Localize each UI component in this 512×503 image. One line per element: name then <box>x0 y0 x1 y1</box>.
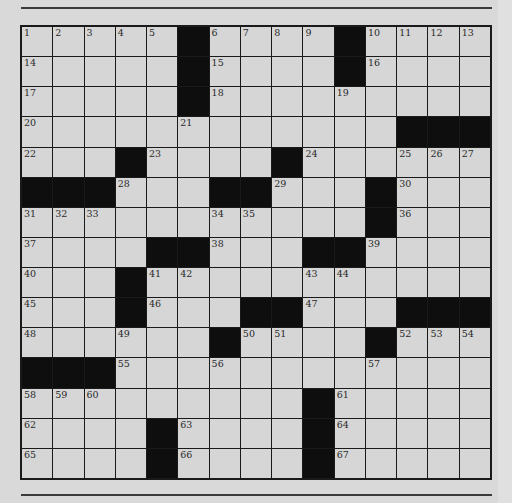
grid-cell[interactable] <box>147 57 177 86</box>
grid-cell[interactable] <box>428 358 458 387</box>
grid-cell[interactable] <box>303 87 333 116</box>
grid-cell[interactable]: 25 <box>397 148 427 177</box>
grid-cell[interactable]: 31 <box>22 208 52 237</box>
grid-cell[interactable] <box>272 268 302 297</box>
grid-cell[interactable] <box>178 389 208 418</box>
grid-cell[interactable]: 55 <box>116 358 146 387</box>
grid-cell[interactable]: 67 <box>335 449 365 478</box>
grid-cell[interactable]: 5 <box>147 27 177 56</box>
grid-cell[interactable] <box>335 148 365 177</box>
grid-cell[interactable] <box>460 208 490 237</box>
grid-cell[interactable]: 47 <box>303 298 333 327</box>
grid-cell[interactable] <box>460 87 490 116</box>
grid-cell[interactable] <box>85 419 115 448</box>
grid-cell[interactable] <box>241 268 271 297</box>
grid-cell[interactable] <box>85 449 115 478</box>
grid-cell[interactable] <box>147 117 177 146</box>
grid-cell[interactable] <box>366 449 396 478</box>
grid-cell[interactable] <box>116 208 146 237</box>
grid-cell[interactable] <box>460 268 490 297</box>
grid-cell[interactable]: 60 <box>85 389 115 418</box>
grid-cell[interactable]: 17 <box>22 87 52 116</box>
grid-cell[interactable] <box>116 238 146 267</box>
grid-cell[interactable]: 62 <box>22 419 52 448</box>
grid-cell[interactable] <box>116 449 146 478</box>
grid-cell[interactable] <box>366 389 396 418</box>
grid-cell[interactable]: 65 <box>22 449 52 478</box>
grid-cell[interactable] <box>116 57 146 86</box>
grid-cell[interactable] <box>210 117 240 146</box>
grid-cell[interactable] <box>85 298 115 327</box>
grid-cell[interactable]: 3 <box>85 27 115 56</box>
grid-cell[interactable] <box>241 358 271 387</box>
grid-cell[interactable]: 30 <box>397 178 427 207</box>
grid-cell[interactable] <box>460 57 490 86</box>
grid-cell[interactable]: 63 <box>178 419 208 448</box>
grid-cell[interactable] <box>53 419 83 448</box>
grid-cell[interactable] <box>397 57 427 86</box>
grid-cell[interactable] <box>335 117 365 146</box>
grid-cell[interactable]: 8 <box>272 27 302 56</box>
grid-cell[interactable] <box>116 419 146 448</box>
grid-cell[interactable] <box>147 208 177 237</box>
grid-cell[interactable]: 24 <box>303 148 333 177</box>
grid-cell[interactable]: 42 <box>178 268 208 297</box>
grid-cell[interactable] <box>335 178 365 207</box>
grid-cell[interactable]: 49 <box>116 328 146 357</box>
grid-cell[interactable] <box>210 389 240 418</box>
grid-cell[interactable] <box>272 419 302 448</box>
grid-cell[interactable] <box>335 328 365 357</box>
grid-cell[interactable] <box>53 148 83 177</box>
grid-cell[interactable] <box>428 178 458 207</box>
grid-cell[interactable] <box>241 57 271 86</box>
grid-cell[interactable] <box>272 87 302 116</box>
grid-cell[interactable] <box>397 268 427 297</box>
grid-cell[interactable] <box>210 148 240 177</box>
grid-cell[interactable] <box>210 449 240 478</box>
grid-cell[interactable]: 59 <box>53 389 83 418</box>
grid-cell[interactable] <box>147 358 177 387</box>
grid-cell[interactable] <box>85 148 115 177</box>
grid-cell[interactable] <box>116 87 146 116</box>
grid-cell[interactable]: 51 <box>272 328 302 357</box>
grid-cell[interactable] <box>241 117 271 146</box>
grid-cell[interactable] <box>272 389 302 418</box>
grid-cell[interactable]: 13 <box>460 27 490 56</box>
grid-cell[interactable] <box>397 238 427 267</box>
grid-cell[interactable] <box>303 328 333 357</box>
grid-cell[interactable] <box>53 268 83 297</box>
grid-cell[interactable] <box>241 389 271 418</box>
grid-cell[interactable]: 44 <box>335 268 365 297</box>
grid-cell[interactable]: 46 <box>147 298 177 327</box>
grid-cell[interactable]: 10 <box>366 27 396 56</box>
grid-cell[interactable]: 28 <box>116 178 146 207</box>
grid-cell[interactable] <box>85 268 115 297</box>
grid-cell[interactable] <box>147 87 177 116</box>
grid-cell[interactable]: 12 <box>428 27 458 56</box>
grid-cell[interactable]: 9 <box>303 27 333 56</box>
grid-cell[interactable] <box>366 117 396 146</box>
grid-cell[interactable] <box>53 298 83 327</box>
grid-cell[interactable]: 54 <box>460 328 490 357</box>
grid-cell[interactable]: 23 <box>147 148 177 177</box>
grid-cell[interactable]: 34 <box>210 208 240 237</box>
grid-cell[interactable] <box>460 389 490 418</box>
grid-cell[interactable] <box>272 208 302 237</box>
grid-cell[interactable] <box>85 117 115 146</box>
grid-cell[interactable] <box>335 358 365 387</box>
grid-cell[interactable]: 53 <box>428 328 458 357</box>
grid-cell[interactable] <box>366 419 396 448</box>
grid-cell[interactable]: 29 <box>272 178 302 207</box>
grid-cell[interactable]: 1 <box>22 27 52 56</box>
grid-cell[interactable] <box>210 419 240 448</box>
grid-cell[interactable] <box>178 178 208 207</box>
grid-cell[interactable] <box>303 178 333 207</box>
grid-cell[interactable] <box>460 178 490 207</box>
grid-cell[interactable]: 56 <box>210 358 240 387</box>
grid-cell[interactable] <box>460 419 490 448</box>
grid-cell[interactable]: 14 <box>22 57 52 86</box>
grid-cell[interactable] <box>53 87 83 116</box>
grid-cell[interactable] <box>303 358 333 387</box>
grid-cell[interactable] <box>397 358 427 387</box>
grid-cell[interactable]: 27 <box>460 148 490 177</box>
